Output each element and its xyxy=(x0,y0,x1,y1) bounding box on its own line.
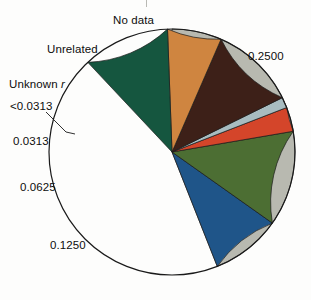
pie-chart-figure: No data Unrelated Unknown r <0.0313 0.03… xyxy=(0,0,311,300)
pie-slices-group xyxy=(88,29,295,266)
slice-label-0313: 0.0313 xyxy=(13,135,49,148)
slice-label-unknown-r: Unknown r xyxy=(9,78,65,91)
slice-label-unrelated: Unrelated xyxy=(47,43,98,56)
slice-label-no-data: No data xyxy=(113,14,154,27)
slice-label-0625: 0.0625 xyxy=(20,181,56,194)
slice-label-lt-0313: <0.0313 xyxy=(10,100,53,113)
slice-label-unknown-r-text: Unknown xyxy=(9,78,61,90)
slice-label-2500: 0.2500 xyxy=(248,50,284,63)
correlation-symbol-r: r xyxy=(61,78,65,90)
pie-slice xyxy=(88,29,172,152)
slice-label-1250: 0.1250 xyxy=(50,239,86,252)
